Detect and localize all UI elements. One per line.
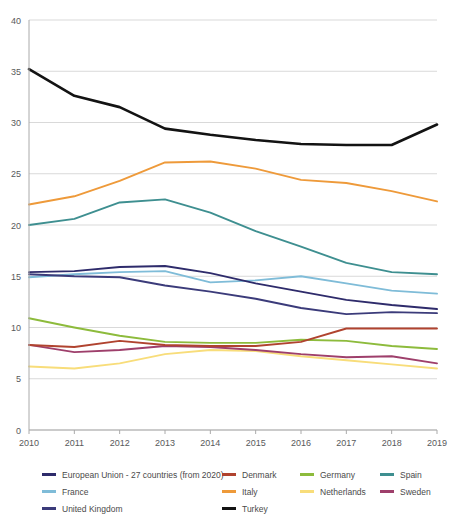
legend-label: European Union - 27 countries (from 2020…	[62, 470, 224, 480]
y-axis-tick-label: 5	[16, 374, 21, 384]
x-axis-tick-label: 2019	[427, 438, 447, 448]
legend-swatch-icon	[42, 507, 56, 510]
series-line	[29, 271, 437, 294]
legend-item[interactable]: Sweden	[380, 487, 440, 497]
x-axis-tick-label: 2015	[246, 438, 266, 448]
legend-item[interactable]: European Union - 27 countries (from 2020…	[42, 470, 222, 480]
legend-item[interactable]: Netherlands	[300, 487, 380, 497]
series-line	[29, 199, 437, 274]
x-axis-tick-labels: 2010201120122013201420152016201720182019	[19, 430, 447, 448]
x-axis-tick-label: 2013	[155, 438, 175, 448]
series-line	[29, 274, 437, 314]
x-axis-tick-label: 2011	[65, 438, 84, 448]
legend-item[interactable]: Germany	[300, 470, 380, 480]
x-axis-tick-label: 2012	[110, 438, 130, 448]
legend-swatch-icon	[222, 490, 236, 493]
chart-plot-area: 0510152025303540 20102011201220132014201…	[0, 0, 449, 466]
legend-label: Netherlands	[320, 487, 366, 497]
y-axis-tick-label: 35	[11, 67, 21, 77]
gridlines	[29, 20, 437, 430]
series-lines	[29, 69, 437, 368]
legend-swatch-icon	[380, 490, 394, 493]
legend-swatch-icon	[300, 490, 314, 493]
legend-label: Turkey	[242, 504, 268, 514]
legend-label: Spain	[400, 470, 422, 480]
line-chart: 0510152025303540 20102011201220132014201…	[0, 0, 449, 518]
series-line	[29, 350, 437, 368]
legend-label: Italy	[242, 487, 258, 497]
chart-legend: European Union - 27 countries (from 2020…	[0, 466, 449, 517]
y-axis-tick-label: 15	[11, 272, 21, 282]
legend-swatch-icon	[380, 473, 394, 476]
legend-item[interactable]: Italy	[222, 487, 300, 497]
y-axis-tick-label: 20	[11, 221, 21, 231]
series-line	[29, 345, 437, 363]
y-axis-tick-label: 30	[11, 118, 21, 128]
series-line	[29, 69, 437, 145]
legend-swatch-icon	[300, 473, 314, 476]
legend-item[interactable]: Turkey	[222, 504, 300, 514]
legend-label: Sweden	[400, 487, 431, 497]
x-axis-tick-label: 2018	[382, 438, 402, 448]
series-line	[29, 161, 437, 204]
legend-swatch-icon	[42, 473, 56, 476]
legend-row: European Union - 27 countries (from 2020…	[0, 466, 449, 483]
legend-label: France	[62, 487, 88, 497]
x-axis-tick-label: 2010	[19, 438, 39, 448]
legend-item[interactable]: United Kingdom	[42, 504, 222, 514]
legend-swatch-icon	[222, 507, 236, 510]
legend-row: FranceItalyNetherlandsSweden	[0, 483, 449, 500]
y-axis-tick-labels: 0510152025303540	[11, 16, 21, 436]
legend-label: Germany	[320, 470, 355, 480]
y-axis-tick-label: 25	[11, 169, 21, 179]
x-axis-tick-label: 2014	[200, 438, 220, 448]
legend-label: United Kingdom	[62, 504, 122, 514]
y-axis-tick-label: 0	[16, 426, 21, 436]
x-axis-tick-label: 2016	[291, 438, 311, 448]
legend-row: United KingdomTurkey	[0, 500, 449, 517]
x-axis-tick-label: 2017	[336, 438, 356, 448]
legend-label: Denmark	[242, 470, 276, 480]
legend-item[interactable]: Spain	[380, 470, 440, 480]
legend-item[interactable]: Denmark	[222, 470, 300, 480]
legend-swatch-icon	[42, 490, 56, 493]
legend-swatch-icon	[222, 473, 236, 476]
y-axis-tick-label: 10	[11, 323, 21, 333]
legend-item[interactable]: France	[42, 487, 222, 497]
y-axis-tick-label: 40	[11, 16, 21, 26]
